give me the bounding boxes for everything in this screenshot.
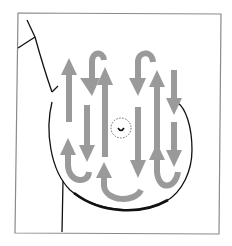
arrow-down-icon [79, 105, 95, 162]
arrow-up-icon [97, 67, 113, 157]
loop-arrow-icon [129, 53, 153, 96]
vertical-strip-arrows [60, 53, 182, 199]
arrow-down-icon [166, 70, 182, 115]
loop-arrow-icon [80, 53, 104, 96]
breast-exam-diagram: Breast self-exam vertical strip pattern [0, 0, 232, 246]
torso-outline-icon [18, 20, 63, 232]
nipple-icon [111, 118, 131, 138]
arrow-up-icon [61, 58, 77, 122]
arrow-down-icon [166, 122, 182, 167]
arrow-down-icon [130, 107, 146, 178]
arrow-up-icon [149, 70, 165, 154]
